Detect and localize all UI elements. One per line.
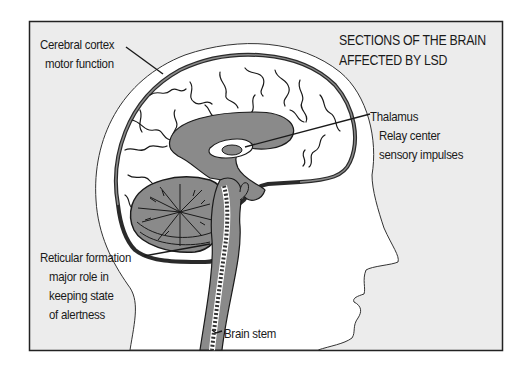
thalamus-label: Thalamus [370, 108, 418, 125]
reticular-formation-description-line1: major role in [49, 268, 109, 285]
brain-stem-label: Brain stem [224, 325, 276, 342]
thalamus-description-line2: sensory impulses [379, 146, 463, 163]
reticular-formation-description-line2: keeping state [49, 287, 114, 304]
thalamus-description-line1: Relay center [379, 127, 440, 144]
diagram-title-line2: AFFECTED BY LSD [339, 51, 447, 70]
reticular-formation-label: Reticular formation [40, 249, 131, 266]
diagram-title-line1: SECTIONS OF THE BRAIN [339, 31, 486, 50]
cerebral-cortex-description: motor function [45, 55, 114, 72]
cerebral-cortex-label: Cerebral cortex [40, 36, 114, 53]
reticular-formation-description-line3: of alertness [49, 306, 105, 323]
